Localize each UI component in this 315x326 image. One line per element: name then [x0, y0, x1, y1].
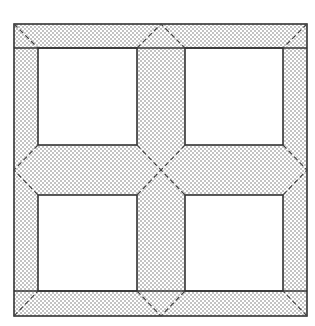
border-bottom: [14, 291, 307, 316]
border-right: [283, 24, 307, 316]
square-top-left: [38, 48, 137, 145]
square-bottom-right: [185, 195, 283, 291]
square-top-right: [185, 48, 283, 145]
sashing-vertical-lower: [137, 195, 185, 291]
border-top: [14, 24, 307, 48]
square-bottom-left: [38, 195, 137, 291]
quilt-block-diagram: [0, 0, 315, 326]
sashing-vertical-upper: [137, 48, 185, 145]
border-left: [14, 24, 38, 316]
